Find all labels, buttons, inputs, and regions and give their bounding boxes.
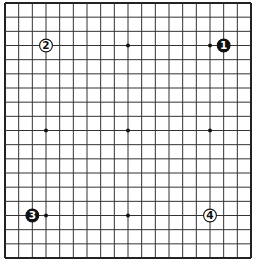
stone-white-move-4: 4	[204, 209, 217, 222]
star-point	[208, 129, 212, 133]
go-board: 1234	[0, 0, 255, 266]
move-number: 3	[29, 209, 36, 221]
move-number: 4	[206, 209, 213, 221]
star-point	[44, 214, 48, 218]
star-point	[126, 129, 130, 133]
move-number: 1	[220, 39, 227, 51]
star-point	[44, 129, 48, 133]
star-point	[126, 44, 130, 48]
stone-black-move-1: 1	[217, 39, 230, 52]
stone-black-move-3: 3	[26, 209, 39, 222]
star-point	[126, 214, 130, 218]
move-number: 2	[42, 39, 49, 51]
star-point	[208, 44, 212, 48]
stone-white-move-2: 2	[40, 39, 53, 52]
